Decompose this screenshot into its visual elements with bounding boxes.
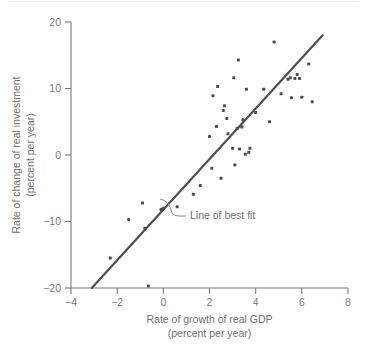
data-point: [244, 153, 247, 156]
data-point: [216, 85, 219, 88]
y-tick-label: −10: [43, 215, 61, 227]
x-axis-title: Rate of growth of real GDP: [146, 313, 272, 325]
data-point: [141, 201, 144, 204]
data-point: [147, 285, 150, 288]
chart-canvas: −20−1001020 −4−202468 Line of best fit R…: [0, 0, 366, 348]
data-point: [222, 109, 225, 112]
line-of-best-fit-label: Line of best fit: [190, 209, 255, 221]
axis-spines: [71, 22, 348, 288]
data-point: [236, 127, 239, 130]
x-tick-label: 4: [253, 296, 259, 308]
data-point: [215, 125, 218, 128]
data-point: [254, 111, 257, 114]
axis-titles: Rate of growth of real GDP (percent per …: [10, 76, 273, 339]
data-point: [127, 218, 130, 221]
data-point: [208, 135, 211, 138]
data-point: [176, 205, 179, 208]
y-axis-ticks: −20−1001020: [43, 16, 71, 294]
data-point: [220, 177, 223, 180]
data-point: [143, 227, 146, 230]
data-point: [225, 117, 228, 120]
data-point: [109, 257, 112, 260]
x-tick-label: −4: [65, 296, 77, 308]
data-point: [280, 92, 283, 95]
axis-lines: [71, 22, 348, 288]
data-point: [199, 184, 202, 187]
data-point: [231, 147, 234, 150]
data-point: [293, 77, 296, 80]
data-point: [223, 104, 226, 107]
data-point: [162, 207, 165, 210]
x-axis-subtitle: (percent per year): [168, 327, 251, 339]
data-point: [268, 120, 271, 123]
data-point: [289, 76, 292, 79]
data-point: [245, 88, 248, 91]
data-point: [298, 77, 301, 80]
data-point: [226, 132, 229, 135]
x-tick-label: 8: [345, 296, 351, 308]
line-of-best-fit: [92, 35, 323, 288]
data-point: [273, 40, 276, 43]
y-axis-subtitle: (percent per year): [24, 113, 36, 196]
data-point: [248, 147, 251, 150]
data-point: [262, 88, 265, 91]
data-point: [192, 193, 195, 196]
data-point: [233, 163, 236, 166]
data-point: [237, 58, 240, 61]
data-point: [210, 167, 213, 170]
data-point: [307, 62, 310, 65]
data-point: [300, 96, 303, 99]
x-tick-label: −2: [111, 296, 123, 308]
data-point: [238, 148, 241, 151]
data-point: [247, 151, 250, 154]
x-tick-label: 0: [160, 296, 166, 308]
scatter-chart-figure: −20−1001020 −4−202468 Line of best fit R…: [0, 0, 366, 348]
y-tick-label: 10: [49, 82, 61, 94]
data-point: [211, 94, 214, 97]
x-axis-ticks: −4−202468: [65, 288, 351, 308]
y-axis-title: Rate of change of real investment: [10, 76, 22, 233]
data-point: [232, 76, 235, 79]
y-tick-label: 20: [49, 16, 61, 28]
y-tick-label: 0: [55, 149, 61, 161]
y-tick-label: −20: [43, 282, 61, 294]
data-point: [311, 100, 314, 103]
x-tick-label: 2: [207, 296, 213, 308]
data-point: [240, 126, 243, 129]
data-point: [241, 118, 244, 121]
data-point: [290, 96, 293, 99]
x-tick-label: 6: [299, 296, 305, 308]
data-point: [296, 73, 299, 76]
